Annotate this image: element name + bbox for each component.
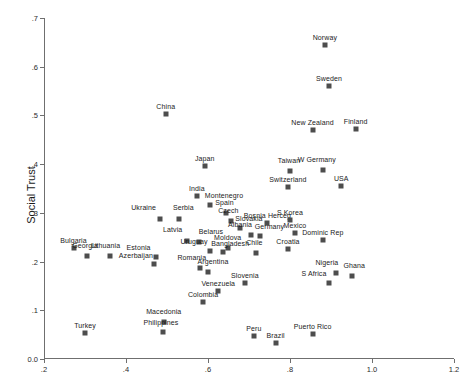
data-point-label: Ukraine [131,204,156,211]
data-point [326,83,331,88]
y-tick-label: .7 [32,14,38,23]
y-tick [40,164,44,165]
data-point-label: India [189,185,205,192]
data-point-label: Czech [218,207,238,214]
data-point-label: Colombia [188,291,218,298]
x-tick-label: .4 [123,365,129,374]
data-point [285,184,290,189]
data-point [258,233,263,238]
data-point [197,266,202,271]
data-point [85,254,90,259]
data-point-label: Uruguay [180,238,207,245]
data-point [310,128,315,133]
y-tick-label: .5 [32,111,38,120]
data-point-label: Norway [313,34,337,41]
data-point-label: Lithuania [91,242,120,249]
y-tick [40,262,44,263]
y-axis-line [44,18,45,359]
x-tick-label: 1.2 [449,365,459,374]
data-point-label: Venezuela [201,280,235,287]
data-point-label: USA [334,175,349,182]
data-point [221,250,226,255]
data-point [206,270,211,275]
data-point [320,237,325,242]
data-point [353,127,358,132]
data-point-label: Ghana [344,262,366,269]
data-point [254,251,259,256]
y-tick [40,18,44,19]
data-point [292,231,297,236]
data-point [107,254,112,259]
data-point [326,280,331,285]
x-tick-label: .8 [287,365,293,374]
data-point-label: S Korea [277,209,303,216]
y-tick-label: .6 [32,62,38,71]
data-point-label: Puerto Rico [294,323,332,330]
data-point-label: Slovenia [231,272,259,279]
data-point-label: New Zealand [291,119,333,126]
y-tick-label: .3 [32,208,38,217]
data-point-label: Turkey [74,322,96,329]
data-point [249,233,254,238]
data-point-label: Japan [195,155,215,162]
data-point [157,216,162,221]
data-point-label: Argentina [198,258,229,265]
data-point-label: W Germany [298,156,336,163]
data-point [285,246,290,251]
data-point [208,203,213,208]
data-point-label: Germany [255,223,285,230]
data-point-label: Switzerland [269,176,306,183]
data-point-label: Chile [246,239,262,246]
data-point-label: Peru [246,325,261,332]
data-point-label: S Africa [301,270,326,277]
x-tick-label: 1.0 [367,365,377,374]
y-tick [40,67,44,68]
y-tick-label: .2 [32,257,38,266]
data-point [160,329,165,334]
y-tick [40,115,44,116]
x-tick-label: .2 [41,365,47,374]
x-tick [44,359,45,363]
x-tick [454,359,455,363]
data-point-label: China [156,103,175,110]
data-point [339,184,344,189]
data-point-label: Bangladesh [211,240,249,247]
data-point-label: Croatia [276,238,299,245]
data-point [194,193,199,198]
x-tick [126,359,127,363]
x-tick [208,359,209,363]
data-point-label: Philippines [143,319,178,326]
data-point [273,341,278,346]
data-point-label: Nigeria [315,259,338,266]
data-point-label: Sweden [316,75,342,82]
x-tick [372,359,373,363]
data-point-label: Albania [228,221,252,228]
data-point [333,270,338,275]
data-point [350,273,355,278]
data-point-label: Spain [215,199,233,206]
x-tick-label: .6 [205,365,211,374]
data-point [177,217,182,222]
y-tick-label: .1 [32,306,38,315]
data-point [163,112,168,117]
y-tick [40,310,44,311]
data-point [202,164,207,169]
data-point [242,281,247,286]
data-point [151,261,156,266]
data-point [251,333,256,338]
data-point [320,167,325,172]
data-point-label: Azerbaijan [119,252,153,259]
data-point-label: Serbia [173,204,194,211]
data-point-label: Latvia [163,226,182,233]
data-point [208,249,213,254]
data-point [288,169,293,174]
x-tick [290,359,291,363]
data-point [201,299,206,304]
data-point-label: Macedonia [146,308,181,315]
data-point [322,42,327,47]
y-tick-label: 0.0 [28,355,38,364]
data-point-label: Brazil [267,332,285,339]
data-point-label: Finland [344,118,368,125]
y-tick [40,213,44,214]
y-tick-label: .4 [32,160,38,169]
